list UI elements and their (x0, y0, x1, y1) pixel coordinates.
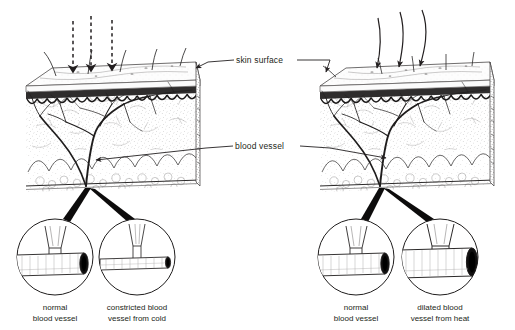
block-side-face-right (490, 62, 494, 186)
label-skin-surface: skin surface (236, 55, 283, 65)
caption-right-dilated: dilated blood vessel from heat (391, 303, 489, 324)
label-blood-vessel: blood vessel (235, 141, 284, 151)
caption-left-constricted: constricted blood vessel from cold (88, 303, 186, 324)
caption-line-2: vessel from cold (88, 314, 186, 325)
callout-right-dilated (400, 219, 478, 295)
skin-thermoregulation-illustration (0, 0, 515, 330)
callout-pointers-left (63, 188, 135, 223)
caption-right-normal: normal blood vessel (316, 303, 396, 324)
skin-block-heat (317, 10, 498, 295)
caption-line-1: normal (316, 303, 396, 314)
caption-line-2: vessel from heat (391, 314, 489, 325)
fat-layer-left (24, 150, 204, 194)
caption-line-2: blood vessel (316, 314, 396, 325)
caption-line-1: dilated blood (391, 303, 489, 314)
caption-line-1: constricted blood (88, 303, 186, 314)
callout-pointers-right (361, 188, 434, 223)
callout-left-constricted (99, 219, 175, 295)
caption-left-normal: normal blood vessel (15, 303, 95, 324)
cold-arrows (73, 16, 112, 69)
skin-block-cold (16, 16, 204, 295)
caption-line-2: blood vessel (15, 314, 95, 325)
figure-canvas: skin surface blood vessel normal blood v… (0, 0, 515, 330)
heat-arrows (377, 10, 426, 68)
fat-layer-right (318, 150, 498, 194)
callout-right-normal (317, 219, 394, 295)
callout-left-normal (16, 219, 93, 295)
block-side-face-left (196, 62, 200, 186)
caption-line-1: normal (15, 303, 95, 314)
